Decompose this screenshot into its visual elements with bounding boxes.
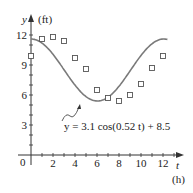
- x-tick-label: 6: [94, 157, 100, 169]
- data-point: [95, 88, 100, 93]
- y-axis-label: y: [21, 13, 27, 25]
- data-point: [73, 56, 78, 61]
- data-point: [117, 99, 122, 104]
- y-axis-arrow-icon: [28, 14, 34, 22]
- x-tick-label: 10: [136, 157, 148, 169]
- y-tick-label: 6: [22, 89, 28, 101]
- x-tick-label: 12: [158, 157, 169, 169]
- y-unit-label: (ft): [38, 13, 52, 26]
- data-point: [84, 67, 89, 72]
- x-axis-arrow-icon: [176, 152, 184, 158]
- y-tick-label: 9: [22, 59, 28, 71]
- x-unit-label: (h): [172, 173, 185, 186]
- data-point: [106, 96, 111, 101]
- data-point: [161, 54, 166, 59]
- chart: 2468101236912 y (ft) t (h) 0 y = 3.1 cos…: [0, 0, 193, 193]
- annotation-leader: [62, 107, 79, 121]
- y-tick-label: 3: [22, 119, 28, 131]
- data-point: [51, 35, 56, 40]
- data-point: [150, 66, 155, 71]
- x-tick-label: 2: [50, 157, 56, 169]
- data-point: [40, 37, 45, 42]
- y-tick-label: 12: [16, 29, 27, 41]
- equation-label: y = 3.1 cos(0.52 t) + 8.5: [64, 120, 171, 133]
- data-point: [139, 82, 144, 87]
- data-point: [29, 54, 34, 59]
- data-points: [29, 35, 166, 104]
- origin-label: 0: [20, 156, 26, 168]
- data-point: [128, 93, 133, 98]
- x-tick-label: 4: [72, 157, 78, 169]
- x-tick-label: 8: [116, 157, 122, 169]
- model-curve: [31, 39, 167, 121]
- x-axis-label: t: [176, 159, 180, 171]
- data-point: [62, 39, 67, 44]
